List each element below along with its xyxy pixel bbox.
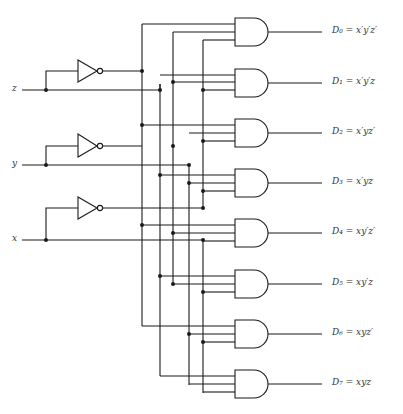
inverter-z	[78, 60, 142, 82]
output-label-d7: D₇ = xyz	[332, 377, 371, 387]
output-label-d3: D₃ = x′yz	[332, 176, 373, 186]
and-gate-d7	[235, 370, 322, 398]
output-label-d5: D₅ = xy′z	[332, 277, 373, 287]
output-label-d2: D₂ = x′yz′	[332, 126, 375, 136]
output-label-d4: D₄ = xy′z′	[332, 226, 375, 236]
output-label-d0: D₀ = x′y′z′	[332, 25, 377, 35]
input-label-y: y	[12, 158, 17, 168]
and-gate-d0	[235, 18, 322, 46]
and-gate-d4	[235, 219, 322, 247]
and-gate-d3	[235, 169, 322, 197]
and-gate-d1	[235, 69, 322, 97]
output-label-d1: D₁ = x′y′z	[332, 76, 375, 86]
input-label-z: z	[12, 83, 17, 93]
and-gate-d5	[235, 270, 322, 298]
inverter-y	[78, 134, 142, 157]
input-label-x: x	[12, 233, 17, 243]
junction-dots	[44, 69, 205, 344]
output-label-d6: D₆ = xyz′	[332, 327, 373, 337]
and-gate-d6	[235, 320, 322, 348]
inverter-x	[78, 197, 203, 219]
decoder-diagram	[0, 0, 403, 414]
input-line-y	[22, 146, 189, 165]
input-line-x	[22, 208, 203, 240]
and-gate-d2	[235, 119, 322, 147]
